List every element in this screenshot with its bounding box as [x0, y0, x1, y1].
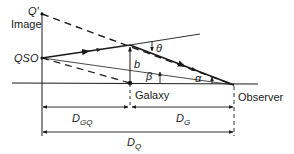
theta-label: θ	[156, 42, 162, 54]
svg-text:GQ: GQ	[80, 118, 92, 127]
lensing-diagram: Q' Image QSO b θ β α Galaxy Observer D G…	[0, 0, 294, 154]
dg-label: D G	[176, 112, 190, 127]
svg-text:D: D	[127, 136, 135, 148]
svg-text:D: D	[176, 112, 184, 124]
undeflected-extension	[130, 34, 200, 45]
q-prime-point	[40, 12, 43, 15]
image-label: Image	[11, 18, 42, 30]
galaxy-point	[128, 81, 132, 85]
galaxy-label: Galaxy	[135, 89, 170, 101]
observer-label: Observer	[238, 91, 284, 103]
ray-segment-1	[42, 45, 130, 58]
beta-label: β	[145, 70, 153, 82]
svg-text:G: G	[184, 118, 190, 127]
dgq-label: D GQ	[72, 112, 92, 127]
qso-point	[40, 56, 43, 59]
svg-text:D: D	[72, 112, 80, 124]
qso-label: QSO	[14, 52, 39, 64]
q-prime-label: Q'	[28, 5, 40, 17]
svg-text:Q: Q	[135, 142, 141, 151]
dq-label: D Q	[127, 136, 141, 151]
b-label: b	[134, 58, 140, 70]
alpha-label: α	[195, 72, 202, 84]
qso-galaxy-dashed	[42, 58, 130, 83]
